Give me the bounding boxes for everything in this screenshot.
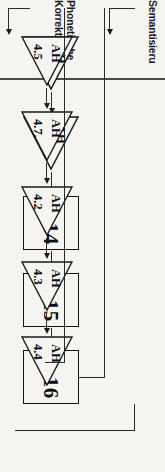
pho-loopin-horizontal bbox=[8, 8, 9, 30]
pho-loopout-vertical-right bbox=[45, 362, 65, 363]
pho-loopin-vertical bbox=[8, 8, 30, 9]
diagram-canvas: Semantisieru Phonetische Korrektur AH 4.… bbox=[0, 0, 165, 472]
triangle-shape-icon bbox=[21, 111, 73, 161]
pho-arrow-4-line bbox=[46, 313, 47, 329]
pho-arrow-1-head bbox=[45, 103, 51, 109]
triangle-pho-4-2-tag: AH bbox=[48, 194, 63, 213]
pho-arrow-3-line bbox=[46, 238, 47, 254]
pho-arrow-4-head bbox=[45, 328, 51, 334]
pho-arrow-3-head bbox=[45, 253, 51, 259]
triangle-pho-4-2-number: 4.2 bbox=[30, 194, 45, 210]
sem-outer-loop-horizontal bbox=[134, 404, 135, 431]
triangle-pho-4-3-number: 4.3 bbox=[30, 269, 45, 285]
sem-loopin-horizontal bbox=[109, 8, 110, 30]
triangle-pho-4-5-number: 4.5 bbox=[30, 44, 45, 60]
triangle-pho-4-4-number: 4.4 bbox=[30, 344, 45, 360]
triangle-pho-4-7-number: 4.7. bbox=[30, 119, 45, 138]
sem-loopout-horizontal bbox=[104, 8, 105, 378]
lane-label-semantisierung: Semantisieru bbox=[147, 0, 159, 64]
triangle-pho-4-7-tag: AH bbox=[48, 119, 63, 138]
triangle-shape-icon bbox=[21, 336, 73, 386]
sem-loopin-arrowhead bbox=[108, 29, 114, 35]
pho-arrow-2-line bbox=[46, 163, 47, 179]
triangle-shape-icon bbox=[21, 36, 73, 86]
triangle-pho-4-3-tag: AH bbox=[48, 269, 63, 288]
pho-arrow-1-line bbox=[46, 88, 47, 104]
pho-loopout-horizontal bbox=[64, 8, 65, 363]
sem-loopout-vertical-right bbox=[78, 377, 105, 378]
triangle-shape-icon bbox=[21, 261, 73, 311]
triangle-pho-4-4-tag: AH bbox=[48, 344, 63, 363]
triangle-pho-4-5-tag: AH bbox=[48, 44, 63, 63]
rotated-figure-canvas: Semantisieru Phonetische Korrektur AH 4.… bbox=[0, 0, 165, 472]
sem-arrow-1-line bbox=[51, 92, 52, 109]
sem-outer-loop-vertical bbox=[15, 430, 135, 431]
sem-loopin-vertical bbox=[109, 8, 135, 9]
pho-arrow-2-head bbox=[45, 178, 51, 184]
pho-loopin-arrowhead bbox=[7, 29, 13, 35]
triangle-shape-icon bbox=[21, 186, 73, 236]
